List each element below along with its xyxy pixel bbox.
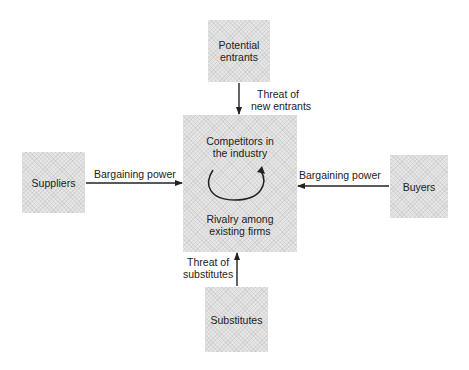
label-threat-entrants: Threat of new entrants: [251, 88, 311, 112]
label-bargaining-buyers: Bargaining power: [299, 169, 381, 181]
arrows-layer: [0, 0, 469, 370]
label-bargaining-suppliers: Bargaining power: [94, 168, 176, 180]
label-threat-substitutes: Threat of substitutes: [183, 256, 233, 280]
rivalry-cycle-icon: [209, 170, 264, 200]
